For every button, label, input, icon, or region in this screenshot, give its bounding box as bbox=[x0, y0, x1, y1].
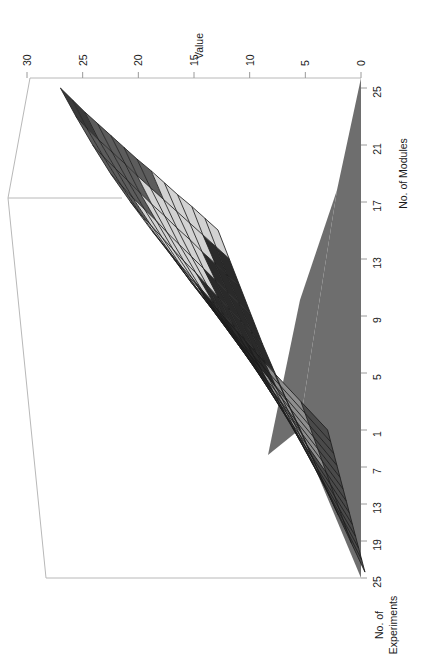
value-tick-label: 25 bbox=[77, 54, 89, 66]
experiments-tick-label: 19 bbox=[371, 539, 383, 551]
value-tick-label: 20 bbox=[132, 54, 144, 66]
modules-axis-title: No. of Modules bbox=[397, 138, 409, 209]
plot-canvas: 302520151050252117139517131925ValueNo. o… bbox=[0, 0, 423, 657]
surface-cell bbox=[60, 88, 86, 128]
experiments-tick-label: 7 bbox=[371, 468, 383, 474]
surface-cell bbox=[72, 100, 98, 140]
frame-edge-1 bbox=[8, 78, 30, 198]
value-tick-label: 0 bbox=[355, 60, 367, 66]
surface-chart: 302520151050252117139517131925ValueNo. o… bbox=[0, 0, 423, 657]
modules-tick-label: 13 bbox=[371, 257, 383, 269]
modules-tick-label: 21 bbox=[371, 143, 383, 155]
experiments-tick-label: 13 bbox=[371, 502, 383, 514]
experiments-axis-title-line2: Experiments bbox=[387, 596, 399, 654]
value-axis-title: Value bbox=[193, 33, 205, 59]
value-tick-label: 10 bbox=[244, 54, 256, 66]
experiments-tick-label: 25 bbox=[371, 576, 383, 588]
value-tick-label: 30 bbox=[21, 54, 33, 66]
modules-tick-label: 25 bbox=[371, 86, 383, 98]
experiments-axis-title-line1: No. of bbox=[373, 611, 385, 639]
modules-tick-label: 5 bbox=[371, 374, 383, 380]
value-tick-label: 5 bbox=[299, 60, 311, 66]
modules-tick-label: 17 bbox=[371, 200, 383, 212]
modules-tick-label: 1 bbox=[371, 431, 383, 437]
frame-edge-3 bbox=[8, 198, 46, 578]
modules-tick-label: 9 bbox=[371, 317, 383, 323]
